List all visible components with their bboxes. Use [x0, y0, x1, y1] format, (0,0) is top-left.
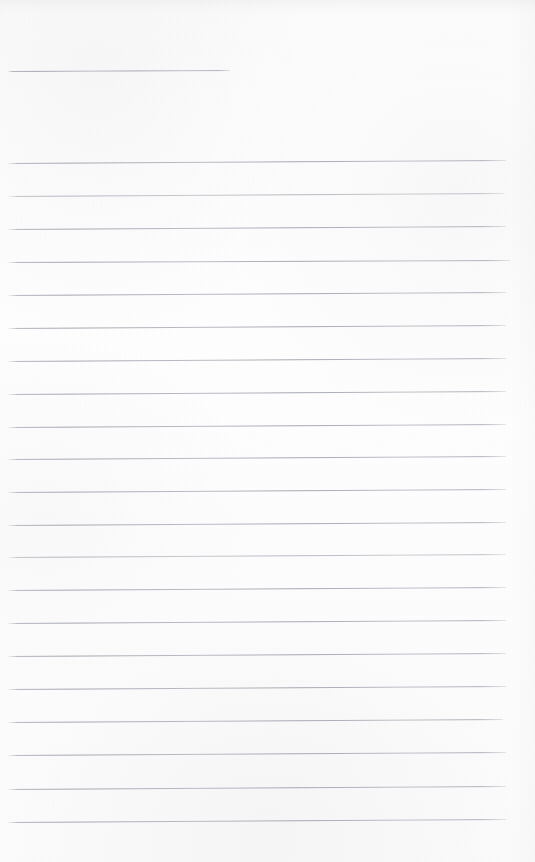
rule-line-19: [8, 719, 503, 723]
rule-line-12: [8, 489, 506, 493]
page-top-edge-shadow: [0, 0, 535, 14]
rule-line-9: [8, 391, 506, 395]
rule-line-4: [8, 226, 506, 230]
notebook-page: [0, 0, 535, 862]
rule-line-14: [8, 554, 506, 558]
rule-line-16: [8, 620, 506, 624]
rule-line-11: [8, 456, 506, 460]
rule-line-18: [8, 686, 506, 690]
rule-line-5: [8, 260, 510, 263]
rule-line-2: [8, 160, 506, 164]
rule-line-13: [8, 522, 506, 526]
paper-grain-texture: [0, 0, 535, 862]
rule-line-3: [8, 193, 504, 197]
rule-line-15: [8, 587, 506, 591]
paper-tone-layer: [0, 0, 535, 862]
rule-line-6: [8, 292, 506, 296]
rule-line-21: [8, 786, 506, 790]
rule-line-10: [8, 424, 506, 428]
rule-line-7: [8, 325, 506, 329]
page-right-edge-shadow: [509, 0, 535, 862]
rule-line-1: [8, 70, 230, 72]
rule-line-17: [8, 653, 506, 657]
ruled-lines-group: [0, 0, 535, 862]
rule-line-20: [8, 752, 506, 756]
rule-line-8: [8, 358, 506, 362]
rule-line-22: [8, 819, 506, 823]
